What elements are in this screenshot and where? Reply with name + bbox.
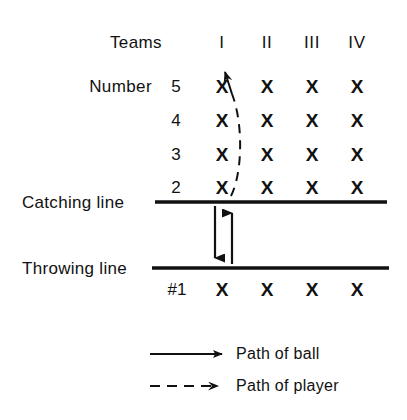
player-mark: X [261, 111, 274, 130]
player-mark: X [306, 178, 319, 197]
player-mark: X [216, 111, 229, 130]
row-number-3: 3 [171, 146, 180, 163]
player-mark: X [351, 111, 364, 130]
row-number-4: 4 [171, 112, 180, 129]
catching-line-label: Catching line [22, 194, 124, 211]
player-mark: X [351, 145, 364, 164]
player-mark: X [261, 178, 274, 197]
player-mark: X [216, 77, 229, 96]
column-header-i: I [219, 34, 224, 51]
player-mark: X [351, 280, 364, 299]
teams-label: Teams [110, 34, 162, 51]
column-header-iii: III [304, 34, 320, 51]
column-header-ii: II [262, 34, 273, 51]
number-label: Number [89, 78, 152, 95]
player-mark: X [216, 178, 229, 197]
player-mark: X [261, 77, 274, 96]
front-row-number: #1 [168, 281, 187, 298]
player-mark: X [306, 77, 319, 96]
player-mark: X [216, 280, 229, 299]
legend-label-path-of-player: Path of player [236, 378, 339, 394]
player-mark: X [306, 111, 319, 130]
column-header-iv: IV [348, 34, 365, 51]
player-mark: X [261, 145, 274, 164]
player-path-curve [231, 94, 240, 196]
throwing-line-label: Throwing line [22, 260, 127, 277]
player-mark: X [306, 145, 319, 164]
relay-formation-diagram: Teams I II III IV Number 5 X X X X 4 X X… [0, 0, 407, 420]
player-mark: X [261, 280, 274, 299]
player-mark: X [216, 145, 229, 164]
legend-label-path-of-ball: Path of ball [236, 346, 320, 362]
row-number-2: 2 [171, 179, 180, 196]
player-mark: X [351, 178, 364, 197]
player-mark: X [351, 77, 364, 96]
player-mark: X [306, 280, 319, 299]
row-number-5: 5 [171, 78, 180, 95]
